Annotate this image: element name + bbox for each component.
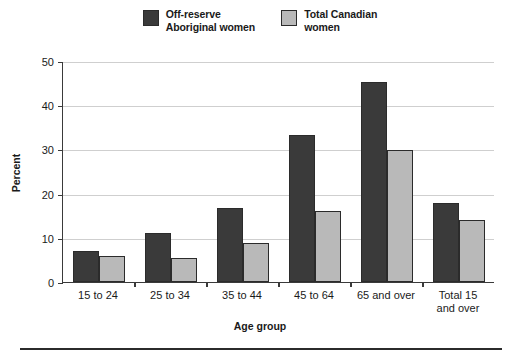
chart-legend: Off-reserve Aboriginal women Total Canad… <box>0 8 520 33</box>
x-tick-mark <box>134 282 136 287</box>
x-category-label: 35 to 44 <box>206 289 278 302</box>
bar-group <box>423 62 495 282</box>
x-category-label: Total 15 and over <box>422 289 494 315</box>
y-tick-mark <box>58 283 63 284</box>
legend-label: Total Canadian women <box>304 8 377 33</box>
x-tick-mark <box>278 282 280 287</box>
bar <box>315 211 341 282</box>
y-tick-label: 30 <box>42 144 54 156</box>
bar <box>459 220 485 282</box>
x-tick-mark <box>422 282 424 287</box>
x-axis-title: Age group <box>0 320 520 332</box>
legend-entry-off-reserve-aboriginal-women: Off-reserve Aboriginal women <box>143 8 255 33</box>
y-tick-label: 0 <box>48 277 54 289</box>
y-axis-title-text: Percent <box>10 153 22 192</box>
bar-group <box>135 62 207 282</box>
legend-label: Off-reserve Aboriginal women <box>166 8 255 33</box>
bottom-divider <box>20 348 502 350</box>
bar-group <box>63 62 135 282</box>
y-tick-label: 50 <box>42 56 54 68</box>
bar <box>387 150 413 282</box>
x-category-label: 45 to 64 <box>278 289 350 302</box>
bar-group <box>351 62 423 282</box>
bar <box>73 251 99 282</box>
bar <box>145 233 171 282</box>
bar <box>171 258 197 282</box>
x-category-label: 15 to 24 <box>62 289 134 302</box>
plot-area: 01020304050 <box>62 62 494 283</box>
bar <box>361 82 387 282</box>
x-category-label: 25 to 34 <box>134 289 206 302</box>
y-tick-label: 10 <box>42 233 54 245</box>
y-axis-title: Percent <box>8 62 24 283</box>
y-tick-label: 40 <box>42 100 54 112</box>
legend-entry-total-canadian-women: Total Canadian women <box>281 8 377 33</box>
bar <box>99 256 125 282</box>
bar <box>289 135 315 282</box>
bar <box>433 203 459 282</box>
bar-group <box>207 62 279 282</box>
bar <box>243 243 269 282</box>
x-category-label: 65 and over <box>350 289 422 302</box>
bar <box>217 208 243 282</box>
x-tick-mark <box>206 282 208 287</box>
y-tick-label: 20 <box>42 189 54 201</box>
legend-swatch-dark-icon <box>143 10 159 26</box>
bar-group <box>279 62 351 282</box>
legend-swatch-light-icon <box>281 10 297 26</box>
x-tick-mark <box>350 282 352 287</box>
